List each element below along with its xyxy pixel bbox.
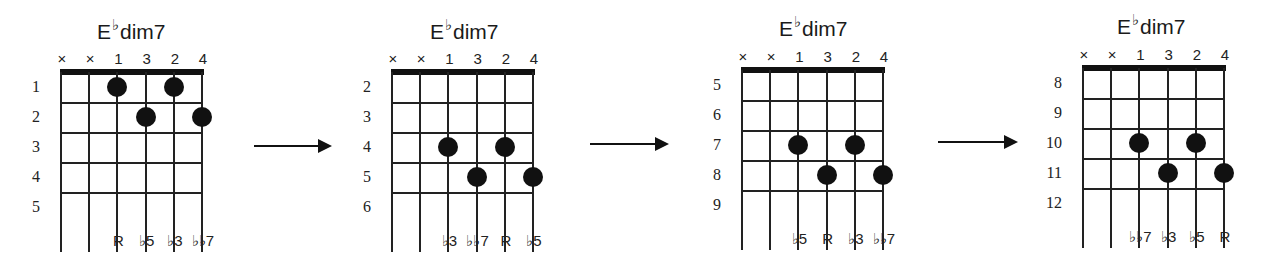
interval-label: ♭3	[442, 232, 457, 250]
interval-label: R	[1220, 228, 1231, 245]
arrowhead-icon	[1004, 135, 1018, 149]
flat-symbol: ♭	[794, 13, 801, 30]
fret-line	[61, 192, 203, 194]
finger-dot	[438, 137, 458, 157]
muted-string-icon: ×	[58, 50, 67, 67]
fret-line	[742, 130, 884, 132]
arrowhead-icon	[318, 139, 332, 153]
fret-line	[742, 160, 884, 162]
finger-dot	[817, 165, 837, 185]
chord-quality: dim7	[1140, 15, 1186, 38]
finger-dot	[1129, 133, 1149, 153]
interval-label: ♭♭7	[192, 232, 214, 250]
nut	[741, 67, 885, 73]
fret-number: 3	[12, 138, 40, 156]
interval-label: ♭3	[167, 232, 182, 250]
chord-title: E♭dim7	[430, 20, 499, 44]
fret-number: 4	[343, 138, 371, 156]
chord-title: E♭dim7	[1117, 15, 1186, 39]
fret-number: 6	[693, 106, 721, 124]
fret-number: 4	[12, 168, 40, 186]
fret-number: 3	[343, 108, 371, 126]
finger-number: 4	[1221, 46, 1229, 63]
fret-line	[1083, 188, 1225, 190]
fret-line	[742, 190, 884, 192]
finger-number: 4	[880, 48, 888, 65]
fret-number: 5	[693, 76, 721, 94]
interval-label: ♭♭7	[873, 230, 895, 248]
finger-number: 3	[823, 48, 831, 65]
fret-number: 8	[1034, 74, 1062, 92]
chord-quality: dim7	[120, 20, 166, 43]
muted-string-icon: ×	[739, 48, 748, 65]
finger-number: 3	[142, 50, 150, 67]
fret-line	[392, 192, 534, 194]
chord-quality: dim7	[802, 17, 848, 40]
finger-dot	[1186, 133, 1206, 153]
finger-dot	[1158, 163, 1178, 183]
interval-label: R	[113, 232, 124, 249]
fret-line	[392, 102, 534, 104]
nut	[391, 69, 535, 75]
fret-line	[61, 162, 203, 164]
chord-quality: dim7	[453, 20, 499, 43]
interval-label: ♭♭7	[1129, 228, 1151, 246]
flat-symbol: ♭	[1132, 11, 1139, 28]
finger-number: 3	[473, 50, 481, 67]
fret-number: 11	[1034, 164, 1062, 182]
fret-line	[392, 132, 534, 134]
interval-label: ♭5	[1189, 228, 1204, 246]
finger-dot	[523, 167, 543, 187]
finger-dot	[495, 137, 515, 157]
fret-line	[61, 132, 203, 134]
interval-label: ♭5	[792, 230, 807, 248]
chord-root: E	[97, 20, 111, 43]
finger-number: 2	[852, 48, 860, 65]
fret-number: 8	[693, 166, 721, 184]
interval-label: R	[822, 230, 833, 247]
finger-number: 2	[1193, 46, 1201, 63]
fret-line	[1083, 158, 1225, 160]
muted-string-icon: ×	[1108, 46, 1117, 63]
finger-number: 1	[114, 50, 122, 67]
finger-dot	[136, 107, 156, 127]
finger-number: 2	[171, 50, 179, 67]
fret-number: 2	[343, 78, 371, 96]
muted-string-icon: ×	[1080, 46, 1089, 63]
fret-line	[1083, 98, 1225, 100]
chord-root: E	[1117, 15, 1131, 38]
muted-string-icon: ×	[86, 50, 95, 67]
finger-dot	[873, 165, 893, 185]
muted-string-icon: ×	[389, 50, 398, 67]
finger-dot	[164, 77, 184, 97]
chord-title: E♭dim7	[97, 20, 166, 44]
arrow-icon	[590, 143, 667, 145]
flat-symbol: ♭	[445, 16, 452, 33]
muted-string-icon: ×	[767, 48, 776, 65]
arrow-icon	[254, 145, 330, 147]
nut	[60, 69, 204, 75]
finger-dot	[788, 135, 808, 155]
muted-string-icon: ×	[417, 50, 426, 67]
interval-label: R	[500, 232, 511, 249]
fret-line	[392, 162, 534, 164]
arrow-icon	[938, 141, 1016, 143]
chord-root: E	[779, 17, 793, 40]
finger-number: 4	[530, 50, 538, 67]
fret-line	[742, 100, 884, 102]
fret-line	[1083, 128, 1225, 130]
finger-dot	[845, 135, 865, 155]
interval-label: ♭5	[526, 232, 541, 250]
fret-number: 7	[693, 136, 721, 154]
finger-number: 1	[445, 50, 453, 67]
arrowhead-icon	[655, 137, 669, 151]
fret-number: 12	[1034, 194, 1062, 212]
interval-label: ♭3	[848, 230, 863, 248]
flat-symbol: ♭	[112, 16, 119, 33]
finger-number: 1	[795, 48, 803, 65]
interval-label: ♭5	[139, 232, 154, 250]
interval-label: ♭3	[1161, 228, 1176, 246]
fret-number: 5	[12, 198, 40, 216]
chord-root: E	[430, 20, 444, 43]
fret-number: 9	[1034, 104, 1062, 122]
